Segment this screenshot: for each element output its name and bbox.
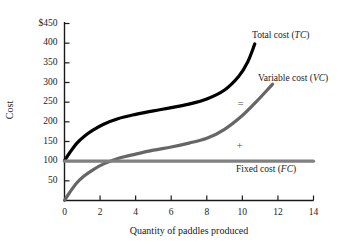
y-axis-tick-label: 50 bbox=[18, 176, 58, 186]
y-axis-tick-label: 400 bbox=[18, 38, 58, 48]
x-axis-tick-label: 14 bbox=[309, 208, 319, 218]
series-label-total-cost-abbr: TC bbox=[295, 30, 307, 40]
y-axis-tick-label: 250 bbox=[18, 97, 58, 107]
series-label-variable-cost: Variable cost (VC) bbox=[258, 74, 328, 84]
x-axis-tick-label: 0 bbox=[62, 208, 67, 218]
series-label-fixed-cost-abbr: FC bbox=[281, 164, 293, 174]
series-label-total-cost-suffix: ) bbox=[306, 30, 309, 40]
x-axis-tick-label: 8 bbox=[204, 208, 209, 218]
y-axis-title: Cost bbox=[5, 88, 15, 132]
x-axis-tick-label: 12 bbox=[273, 208, 283, 218]
y-axis-tick-label: 150 bbox=[18, 137, 58, 147]
x-axis-tick-label: 2 bbox=[98, 208, 103, 218]
x-axis-tick-label: 10 bbox=[238, 208, 248, 218]
plus-symbol: + bbox=[237, 140, 243, 151]
series-label-fixed-cost-suffix: ) bbox=[293, 164, 296, 174]
y-axis-tick-label: 200 bbox=[18, 117, 58, 127]
y-axis-tick-label: 100 bbox=[18, 156, 58, 166]
equals-symbol: = bbox=[237, 98, 243, 109]
y-axis-tick-label: 300 bbox=[18, 78, 58, 88]
x-axis-tick-label: 6 bbox=[169, 208, 174, 218]
total-cost-curve bbox=[65, 44, 255, 161]
series-label-fixed-cost: Fixed cost (FC) bbox=[236, 165, 296, 175]
series-label-total-cost-prefix: Total cost ( bbox=[252, 30, 295, 40]
cost-curves-chart: 50100150200250300350400$450 02468101214 … bbox=[0, 0, 358, 247]
x-axis-title: Quantity of paddles produced bbox=[64, 226, 314, 236]
series-label-fixed-cost-prefix: Fixed cost ( bbox=[236, 164, 281, 174]
y-axis-tick-label: 350 bbox=[18, 58, 58, 68]
x-axis-tick-label: 4 bbox=[133, 208, 138, 218]
y-axis-tick-label: $450 bbox=[18, 19, 58, 29]
series-label-variable-cost-prefix: Variable cost ( bbox=[258, 73, 313, 83]
series-label-variable-cost-abbr: VC bbox=[313, 73, 325, 83]
series-label-variable-cost-suffix: ) bbox=[325, 73, 328, 83]
series-label-total-cost: Total cost (TC) bbox=[252, 31, 309, 41]
